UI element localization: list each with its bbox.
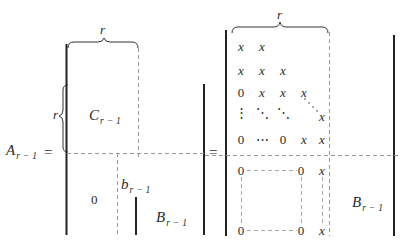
cell-r4-c4: x — [315, 133, 329, 146]
diagram-lines — [0, 0, 403, 242]
right-top-brace — [232, 22, 328, 33]
block-b-subscript: r − 1 — [130, 185, 151, 195]
left-block-B-label: Br − 1 — [156, 210, 187, 225]
cell-r3-c4: x — [315, 110, 329, 123]
cell-r4-c0: 0 — [234, 133, 248, 146]
block-C-base: C — [89, 107, 99, 123]
cell-r2-c0: 0 — [234, 86, 248, 99]
right-block-B-base: B — [352, 194, 361, 210]
right-block-B-subscript: r − 1 — [362, 203, 383, 213]
cell-r3-c1: ⋱ — [255, 106, 269, 119]
cell-r1-c1: x — [255, 64, 269, 77]
block-b-base: b — [121, 176, 129, 192]
right-block-B-label: Br − 1 — [352, 195, 383, 210]
lower-col-top-x: x — [315, 164, 329, 177]
cell-r2-c2: x — [276, 86, 290, 99]
lower-top-right-zero: 0 — [294, 164, 308, 177]
right-top-brace-label: r — [277, 8, 282, 21]
lower-bottom-right-zero: 0 — [294, 224, 308, 237]
lhs-equals: = — [44, 145, 52, 160]
cell-r3-c2: ⋱ — [276, 106, 290, 119]
cell-r2-c3: x — [297, 86, 311, 99]
cell-r4-c1: ⋯ — [255, 133, 269, 146]
middle-equals: = — [209, 145, 217, 160]
left-side-brace-label: r — [53, 108, 58, 121]
cell-r0-c1: x — [255, 40, 269, 53]
cell-r2-c1: x — [255, 86, 269, 99]
lhs-A-label: Ar − 1 — [6, 143, 37, 158]
block-C-label: Cr − 1 — [89, 108, 121, 123]
left-top-brace — [68, 38, 138, 48]
cell-r0-c0: x — [234, 40, 248, 53]
block-zero-label: 0 — [91, 193, 98, 206]
lhs-base: A — [6, 142, 15, 158]
left-top-brace-label: r — [100, 23, 105, 36]
cell-r1-c2: x — [276, 64, 290, 77]
cell-r3-c0: ⋮ — [234, 106, 248, 119]
lower-col-bottom-x: x — [315, 224, 329, 237]
cell-r4-c2: 0 — [276, 133, 290, 146]
cell-r4-c3: x — [297, 133, 311, 146]
left-block-B-subscript: r − 1 — [166, 218, 187, 228]
block-b-label: br − 1 — [121, 177, 151, 192]
block-C-subscript: r − 1 — [100, 116, 121, 126]
lhs-subscript: r − 1 — [16, 151, 37, 161]
lower-bottom-left-zero: 0 — [234, 224, 248, 237]
cell-r1-c0: x — [234, 64, 248, 77]
lower-top-left-zero: 0 — [234, 164, 248, 177]
left-block-B-base: B — [156, 209, 165, 225]
